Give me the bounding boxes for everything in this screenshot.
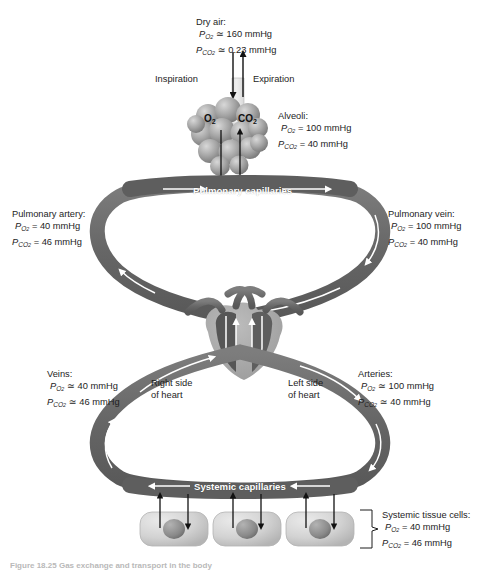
tissue-cells-brace — [360, 510, 378, 548]
cell-nucleus — [163, 519, 185, 539]
cell-nucleus — [236, 519, 258, 539]
alveoli-heading: Alveoli: — [278, 110, 351, 122]
tissue-cell — [286, 512, 354, 546]
pulmonary-artery-label: Pulmonary artery: PO2 = 40 mmHg PCO2 = 4… — [12, 208, 85, 251]
tissue-cells-po2-value: 40 mmHg — [410, 522, 450, 532]
arteries-label: Arteries: PO2 ≃ 100 mmHg PCO2 ≃ 40 mmHg — [358, 368, 434, 411]
dry-air-po2-approx: ≃ — [216, 29, 224, 39]
dry-air-heading: Dry air: — [196, 16, 276, 28]
arteries-pco2-value: 40 mmHg — [390, 397, 430, 407]
pulmonary-vein-pco2-value: 40 mmHg — [418, 237, 458, 247]
pulmonary-capillaries-label: Pulmonary capillaries — [193, 185, 292, 196]
o2-gas-label: O2 — [204, 113, 216, 125]
figure-caption: Figure 18.25 Gas exchange and transport … — [10, 561, 440, 572]
dry-air-label: Dry air: PO2 ≃ 160 mmHg PCO2 ≃ 0.23 mmHg — [196, 16, 276, 59]
pulmonary-artery-po2-value: 40 mmHg — [40, 221, 80, 231]
co2-gas-label: CO2 — [238, 113, 257, 125]
pulmonary-vein-label: Pulmonary vein: PO2 = 100 mmHg PCO2 = 40… — [388, 208, 461, 251]
veins-po2-value: 40 mmHg — [78, 381, 118, 391]
arteries-po2-value: 100 mmHg — [389, 381, 434, 391]
tissue-cells — [140, 512, 354, 546]
inspiration-label: Inspiration — [155, 74, 198, 84]
heart — [206, 303, 283, 380]
systemic-capillaries-label: Systemic capillaries — [194, 481, 286, 492]
dry-air-po2-value: 160 mmHg — [227, 29, 272, 39]
alveoli-label: Alveoli: PO2 = 100 mmHg PCO2 = 40 mmHg — [278, 110, 351, 153]
pulmonary-vein-po2-value: 100 mmHg — [416, 221, 461, 231]
tissue-cells-pco2-value: 46 mmHg — [412, 538, 452, 548]
dry-air-pco2-value: 0.23 mmHg — [228, 45, 276, 55]
tissue-cell — [213, 512, 281, 546]
veins-label: Veins: PO2 ≃ 40 mmHg PCO2 ≃ 46 mmHg — [47, 368, 120, 411]
alveoli-cluster — [187, 97, 268, 176]
left-heart-label: Left side of heart — [288, 378, 323, 401]
cell-nucleus — [309, 519, 331, 539]
alveoli-pco2-value: 40 mmHg — [308, 139, 348, 149]
expiration-label: Expiration — [253, 74, 294, 84]
alveoli-po2-value: 100 mmHg — [306, 123, 351, 133]
right-heart-label: Right side of heart — [151, 378, 192, 401]
tissue-cells-label: Systemic tissue cells: PO2 = 40 mmHg PCO… — [382, 509, 470, 552]
tissue-cell — [140, 512, 208, 546]
veins-pco2-value: 46 mmHg — [79, 397, 119, 407]
dry-air-pco2-approx: ≃ — [218, 45, 226, 55]
pulmonary-artery-pco2-value: 46 mmHg — [42, 237, 82, 247]
